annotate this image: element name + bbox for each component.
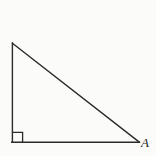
vertex-label-a: A	[141, 136, 149, 149]
hypotenuse-line	[12, 43, 139, 142]
geometry-figure: A	[0, 0, 156, 156]
right-angle-marker-icon	[13, 132, 23, 142]
triangle-drawing	[0, 0, 156, 156]
